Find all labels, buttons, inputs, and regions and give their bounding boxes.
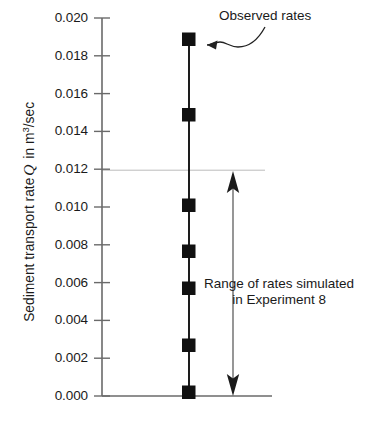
y-tick-label-0016: 0.016 bbox=[6, 87, 88, 101]
y-tick-label-0004: 0.004 bbox=[6, 313, 88, 327]
annotation-range-line1: Range of rates simulated bbox=[204, 276, 354, 291]
observed-rates-arrow bbox=[207, 27, 265, 50]
data-point-marker[interactable] bbox=[182, 245, 196, 259]
y-axis-title-exponent: 3 bbox=[20, 127, 31, 132]
y-tick-label-0002: 0.002 bbox=[6, 351, 88, 365]
data-point-marker[interactable] bbox=[182, 386, 196, 400]
y-axis-title-prefix: Sediment transport rate bbox=[22, 178, 37, 322]
y-tick-label-0000: 0.000 bbox=[6, 389, 88, 403]
y-tick-label-0006: 0.006 bbox=[6, 276, 88, 290]
data-point-marker[interactable] bbox=[182, 282, 196, 296]
data-point-marker[interactable] bbox=[182, 339, 196, 353]
sediment-transport-chart: 0.020 0.018 0.016 0.014 0.012 0.010 0.00… bbox=[0, 0, 368, 426]
annotation-observed-rates: Observed rates bbox=[219, 8, 311, 24]
y-tick-label-0018: 0.018 bbox=[6, 49, 88, 63]
y-tick-label-0010: 0.010 bbox=[6, 200, 88, 214]
y-tick-label-0012: 0.012 bbox=[6, 162, 88, 176]
y-axis-title-symbol: Q bbox=[20, 162, 37, 177]
y-tick-label-0008: 0.008 bbox=[6, 238, 88, 252]
y-axis-title-units-post: /sec bbox=[22, 102, 37, 127]
data-point-marker[interactable] bbox=[182, 108, 196, 122]
data-point-marker[interactable] bbox=[182, 33, 196, 47]
y-axis-title: Sediment transport rateQ in m3/sec bbox=[21, 62, 37, 362]
y-axis-title-units-pre: in m bbox=[22, 133, 37, 163]
annotation-range-line2: in Experiment 8 bbox=[204, 292, 354, 308]
annotation-range-simulated: Range of rates simulated in Experiment 8 bbox=[204, 276, 354, 307]
y-tick-label-0020: 0.020 bbox=[6, 11, 88, 25]
y-tick-label-0014: 0.014 bbox=[6, 124, 88, 138]
data-point-marker[interactable] bbox=[182, 199, 196, 213]
